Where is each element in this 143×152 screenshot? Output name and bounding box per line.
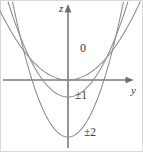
curve-label-plus-minus-1: ±1 [75, 90, 87, 102]
parabola-curves [0, 2, 140, 137]
y-axis-label: y [131, 85, 136, 96]
curve-label-plus-minus-2: ±2 [84, 127, 96, 139]
z-axis-label: z [59, 3, 63, 14]
z-axis-arrowhead [65, 4, 72, 13]
y-axis-arrowhead [126, 77, 135, 84]
parabola-figure: z y 0 ±1 ±2 [0, 0, 143, 152]
figure-canvas [0, 0, 143, 152]
curve-label-0: 0 [80, 42, 86, 54]
